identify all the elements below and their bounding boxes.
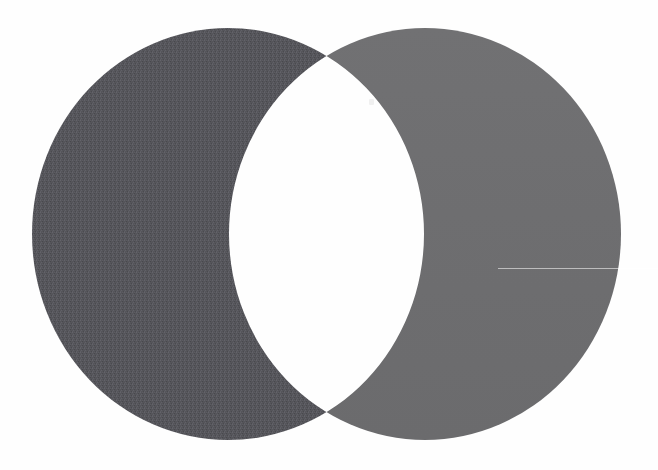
overlapping-circles-figure	[0, 0, 658, 470]
image-canvas: Two overlapping circles forming a letter…	[0, 0, 658, 470]
